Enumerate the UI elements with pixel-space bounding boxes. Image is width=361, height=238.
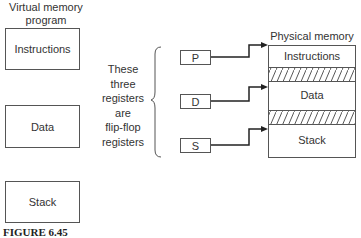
brace-icon — [151, 47, 161, 157]
register-d: D — [180, 94, 211, 109]
divider — [268, 110, 356, 111]
divider — [268, 67, 356, 68]
register-p: P — [180, 50, 211, 65]
physical-memory-title: Physical memory — [262, 30, 361, 43]
physical-data-segment: Data — [268, 89, 356, 102]
divider — [268, 81, 356, 82]
divider — [268, 124, 356, 125]
register-s: S — [180, 138, 211, 153]
figure-caption: FIGURE 6.45 — [3, 226, 68, 238]
physical-stack-segment: Stack — [268, 134, 356, 147]
physical-instructions-segment: Instructions — [268, 50, 356, 63]
